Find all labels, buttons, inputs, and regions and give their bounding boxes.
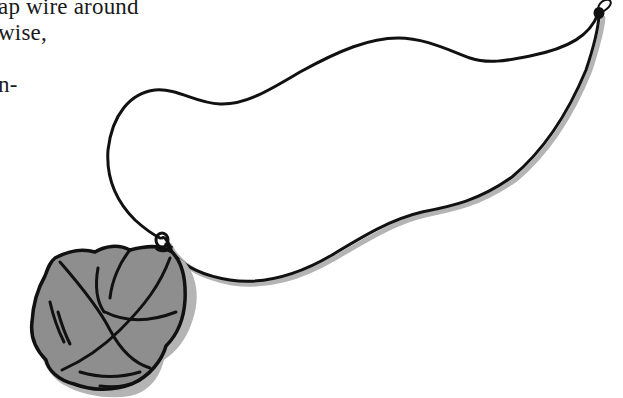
cord bbox=[108, 14, 599, 281]
clasp-knot bbox=[595, 0, 611, 17]
pendant-loop bbox=[156, 233, 172, 251]
pendant-necklace-illustration bbox=[0, 0, 623, 398]
